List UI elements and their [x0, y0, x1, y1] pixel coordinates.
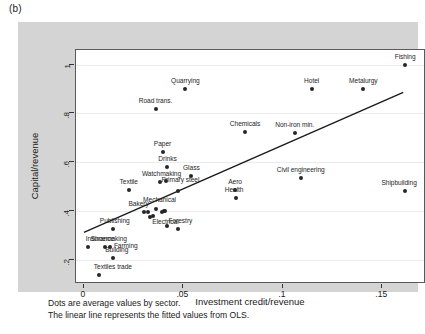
data-point-label: Aero: [228, 178, 242, 185]
y-tick-label: .4: [63, 210, 72, 217]
data-point: [146, 210, 150, 214]
data-point-label: Non-iron min.: [275, 121, 314, 128]
data-point: [165, 165, 169, 169]
data-point: [151, 214, 155, 218]
gridline: [76, 113, 424, 114]
data-point-label: Drinks: [158, 155, 176, 162]
data-point-label: Hotel: [304, 77, 319, 84]
data-point: [176, 189, 180, 193]
data-point: [403, 63, 407, 67]
data-point: [154, 107, 158, 111]
data-point: [176, 227, 180, 231]
y-tick-label: .6: [63, 161, 72, 168]
caption-line-2: The linear line represents the fitted va…: [48, 309, 249, 321]
data-point: [161, 150, 165, 154]
data-point: [361, 87, 365, 91]
data-point-label: Publishing: [100, 217, 130, 224]
data-point-label: Shoemaking: [91, 235, 127, 242]
data-point-label: Shipbuilding: [381, 179, 416, 186]
gridline: [76, 260, 424, 261]
data-point: [243, 130, 247, 134]
y-tick-label: .2: [63, 259, 72, 266]
data-point: [299, 176, 303, 180]
data-point: [97, 273, 101, 277]
data-point-label: Fishing: [395, 53, 416, 60]
graph-region: Capital/revenue Investment credit/revenu…: [18, 22, 418, 292]
x-tick-mark: [381, 284, 382, 288]
data-point-label: Textiles trade: [94, 263, 132, 270]
caption-line-1: Dots are average values by sector.: [48, 297, 249, 309]
gridline: [76, 162, 424, 163]
data-point: [234, 196, 238, 200]
data-point: [111, 227, 115, 231]
data-point-label: Forestry: [169, 217, 193, 224]
figure-caption: Dots are average values by sector. The l…: [48, 297, 249, 321]
data-point: [403, 189, 407, 193]
y-tick-label: 1: [63, 64, 72, 68]
data-point-label: Primary steel: [162, 176, 200, 183]
data-point-label: Chemicals: [230, 120, 260, 127]
data-point: [165, 224, 169, 228]
x-tick-mark: [182, 284, 183, 288]
gridline: [76, 65, 424, 66]
y-tick-label: .8: [63, 112, 72, 119]
panel-label: (b): [9, 3, 22, 14]
gridline: [76, 211, 424, 212]
plot-area: FishingHotelMetalurgyQuarryingRoad trans…: [75, 49, 425, 283]
data-point: [127, 188, 131, 192]
data-point-label: Quarrying: [171, 77, 200, 84]
x-tick-mark: [282, 284, 283, 288]
data-point-label: Metalurgy: [349, 77, 378, 84]
data-point-label: Bakery: [128, 200, 148, 207]
x-tick-label: .1: [278, 289, 285, 299]
data-point: [86, 245, 90, 249]
data-point-label: Glass: [183, 164, 200, 171]
data-point-label: Paper: [154, 140, 171, 147]
data-point-label: Textile: [120, 178, 138, 185]
x-tick-mark: [83, 284, 84, 288]
x-tick-label: .15: [375, 289, 387, 299]
y-axis-label: Capital/revenue: [29, 133, 40, 200]
data-point: [160, 210, 164, 214]
data-point: [183, 87, 187, 91]
data-point-label: Road trans.: [139, 97, 173, 104]
data-point: [293, 131, 297, 135]
data-point-label: Health: [225, 186, 244, 193]
data-point: [111, 256, 115, 260]
figure-panel-b: (b) Capital/revenue Investment credit/re…: [0, 0, 425, 334]
data-point: [310, 87, 314, 91]
data-point-label: Building: [105, 246, 128, 253]
data-point-label: Civil engineering: [277, 166, 325, 173]
